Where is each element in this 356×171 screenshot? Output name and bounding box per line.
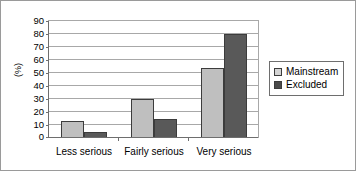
legend-item-mainstream[interactable]: Mainstream — [274, 65, 338, 78]
bar-excluded-0[interactable] — [84, 132, 107, 137]
legend-label: Mainstream — [286, 66, 338, 78]
bar-excluded-1[interactable] — [154, 119, 177, 137]
legend-label: Excluded — [286, 79, 327, 91]
y-tick-label-20: 20 — [33, 106, 44, 117]
y-tick-label-50: 50 — [33, 67, 44, 78]
x-tick-label-2: Very serious — [196, 146, 251, 157]
plot-area: 0102030405060708090 Less seriousFairly s… — [48, 20, 259, 138]
bar-excluded-2[interactable] — [224, 34, 247, 137]
y-axis-title: (%) — [13, 59, 23, 81]
bar-group: Fairly serious — [119, 20, 189, 137]
y-tick-label-40: 40 — [33, 80, 44, 91]
bar-mainstream-0[interactable] — [61, 121, 84, 137]
y-tick-label-10: 10 — [33, 119, 44, 130]
bar-chart-figure: (%) 0102030405060708090 Less seriousFair… — [0, 0, 356, 171]
y-tick-label-0: 0 — [39, 131, 44, 142]
x-tick-label-1: Fairly serious — [124, 146, 183, 157]
y-tick-label-80: 80 — [33, 28, 44, 39]
legend-swatch-icon-excluded — [274, 81, 282, 89]
y-tick-label-90: 90 — [33, 15, 44, 26]
x-tick-mark-1 — [188, 137, 189, 141]
legend-swatch-icon-mainstream — [274, 68, 282, 76]
x-tick-label-0: Less serious — [56, 146, 112, 157]
y-tick-label-70: 70 — [33, 41, 44, 52]
chart-legend: MainstreamExcluded — [269, 61, 344, 96]
y-tick-label-30: 30 — [33, 93, 44, 104]
legend-item-excluded[interactable]: Excluded — [274, 78, 338, 91]
y-tick-mark-0 — [46, 137, 49, 138]
bar-groups: Less seriousFairly seriousVery serious — [49, 20, 259, 137]
x-tick-mark-0 — [118, 137, 119, 141]
y-tick-label-60: 60 — [33, 54, 44, 65]
bar-group: Less serious — [49, 20, 119, 137]
bar-mainstream-1[interactable] — [131, 99, 154, 137]
bar-mainstream-2[interactable] — [201, 68, 224, 137]
bar-group: Very serious — [189, 20, 259, 137]
